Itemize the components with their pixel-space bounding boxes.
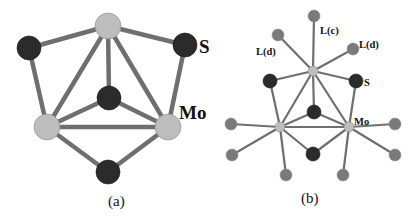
panel-a-atom-s-s_center [97, 86, 121, 110]
panel-b-bond [280, 127, 286, 175]
panel-b-bond [349, 127, 395, 155]
molecular-structure-diagram: S Mo (a) L(c) L(d) L(d) S Mo (b) [0, 0, 420, 219]
panel-b-atom-s-s_bottom [306, 147, 320, 161]
panel-b-bond [231, 124, 280, 127]
figure: S Mo (a) L(c) L(d) L(d) S Mo (b) [0, 0, 420, 219]
panel-b-label-ld-right: L(d) [359, 39, 379, 51]
panel-b-bond [343, 127, 349, 175]
panel-a-label-s: S [199, 36, 210, 57]
panel-b-bond [313, 16, 314, 71]
panel-a-atom-s-s_bottom [96, 160, 120, 184]
panel-a-atom-mo-mo_bl [34, 114, 60, 140]
panel-b-label-ld-left: L(d) [256, 46, 276, 58]
panel-b-atom-s-s_center [307, 105, 321, 119]
panel-b-atom-ligand-l_b2 [337, 169, 349, 181]
panel-b-label-s: S [364, 77, 370, 88]
panel-b-atom-ligand-l_l1 [225, 118, 237, 130]
panel-b-atom-mo-mo_l [275, 122, 285, 132]
panel-b-atom-s-s_left [263, 74, 277, 88]
panel-a-atom-mo-mo_top [95, 13, 121, 39]
panel-b-atom-ligand-l_d_left [272, 29, 284, 41]
panel-b-bond [313, 49, 353, 71]
panel-b-atom-ligand-l_c [308, 10, 320, 22]
panel-a-caption: (a) [108, 193, 125, 210]
panel-a-atoms [17, 13, 197, 184]
panel-b-label-lc: L(c) [320, 25, 339, 37]
panel-b-atom-ligand-l_l2 [226, 149, 238, 161]
panel-b-atom-ligand-l_r1 [389, 118, 401, 130]
panel-a-atom-mo-mo_br [155, 114, 181, 140]
panel-a-label-mo: Mo [179, 102, 206, 123]
panel-b-atom-ligand-l_d_right [347, 43, 359, 55]
panel-a-atom-s-s_right [173, 33, 197, 57]
panel-b-atom-mo-mo_r [344, 122, 354, 132]
panel-b-bond [232, 127, 280, 155]
panel-b-atom-ligand-l_r2 [389, 149, 401, 161]
panel-b-atom-mo-mo_top [308, 66, 318, 76]
panel-b-label-mo: Mo [354, 116, 369, 127]
panel-b-atom-s-s_right [349, 74, 363, 88]
panel-a-atom-s-s_left [17, 36, 41, 60]
panel-b-caption: (b) [301, 190, 319, 207]
panel-b-atom-ligand-l_b1 [280, 169, 292, 181]
panel-b-bond [278, 35, 313, 71]
